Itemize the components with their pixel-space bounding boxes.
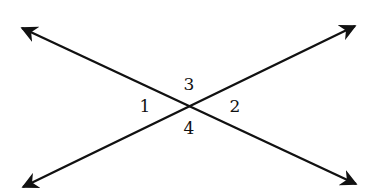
- angle-label-4: 4: [184, 118, 195, 138]
- angle-label-1: 1: [140, 96, 151, 116]
- angle-label-2: 2: [230, 96, 241, 116]
- line-b: [23, 26, 355, 187]
- diagram-svg: 1 2 3 4: [0, 0, 368, 196]
- intersecting-lines-diagram: 1 2 3 4: [0, 0, 368, 196]
- angle-label-3: 3: [184, 74, 195, 94]
